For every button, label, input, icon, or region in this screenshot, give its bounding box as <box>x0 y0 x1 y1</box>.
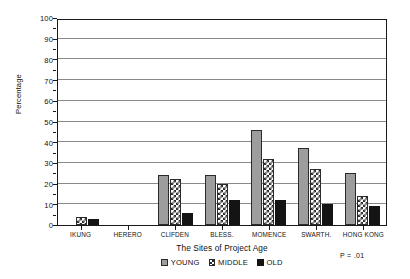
legend-label: OLD <box>267 258 283 267</box>
y-axis-tick-label: 70 <box>27 78 53 86</box>
y-axis-tick-label: 0 <box>27 222 53 230</box>
x-axis-category-label: HERERO <box>104 231 151 243</box>
legend-label: YOUNG <box>171 258 200 267</box>
bar-group <box>105 20 152 225</box>
y-axis-tick-label: 80 <box>27 57 53 65</box>
legend-item: YOUNG <box>161 258 199 267</box>
y-axis-tick-label: 60 <box>27 98 53 106</box>
bar-young <box>158 175 169 225</box>
y-axis-tick-label: 90 <box>27 36 53 44</box>
x-axis-tick-mark <box>269 226 270 230</box>
bar-old <box>88 219 99 225</box>
legend-item: OLD <box>257 258 283 267</box>
y-axis-minor-tick <box>53 49 56 50</box>
x-axis-category-label: HONG KONG <box>340 231 387 243</box>
y-axis-tick-label: 50 <box>27 119 53 127</box>
chart-legend: YOUNGMIDDLEOLD <box>57 258 387 267</box>
y-axis-minor-tick <box>53 194 56 195</box>
x-axis-category-labels: IKUNGHEREROCLIFDENBLESS.MOMENCESWARTH.HO… <box>57 231 387 243</box>
y-axis-tick-label: 100 <box>27 15 53 23</box>
bar-group <box>199 20 246 225</box>
y-axis-label-container: Percentage <box>20 19 21 226</box>
bar-middle <box>263 159 274 225</box>
plot-area <box>57 19 387 226</box>
bar-group <box>245 20 292 225</box>
legend-label: MIDDLE <box>218 258 248 267</box>
bar-group <box>292 20 339 225</box>
bar-group <box>58 20 105 225</box>
x-axis-category-label: SWARTH. <box>293 231 340 243</box>
x-axis-tick-mark <box>81 226 82 230</box>
legend-swatch-icon <box>257 259 264 266</box>
bar-old <box>322 204 333 225</box>
x-axis-tick-mark <box>128 226 129 230</box>
y-axis-label: Percentage <box>14 74 23 114</box>
y-axis-minor-tick <box>53 173 56 174</box>
y-axis-tick-label: 30 <box>27 160 53 168</box>
y-axis-minor-tick <box>53 132 56 133</box>
bar-group <box>339 20 386 225</box>
p-value-annotation: P = .01 <box>340 252 364 259</box>
x-axis-category-label: CLIFDEN <box>151 231 198 243</box>
bar-young <box>251 130 262 225</box>
bar-middle <box>217 184 228 225</box>
bar-group <box>152 20 199 225</box>
x-axis-category-label: BLESS. <box>198 231 245 243</box>
y-axis-minor-tick <box>53 111 56 112</box>
x-axis-tick-mark <box>175 226 176 230</box>
bar-old <box>229 200 240 225</box>
bar-old <box>369 206 380 225</box>
x-axis-category-label: MOMENCE <box>246 231 293 243</box>
bar-chart-figure: Percentage 0102030405060708090100 IKUNGH… <box>0 0 410 279</box>
y-axis-tick-labels: 0102030405060708090100 <box>23 19 53 226</box>
x-axis-tick-mark <box>363 226 364 230</box>
bar-middle <box>310 169 321 225</box>
y-axis-tick-label: 40 <box>27 140 53 148</box>
bar-middle <box>357 196 368 225</box>
x-axis-tick-mark <box>316 226 317 230</box>
bar-young <box>205 175 216 225</box>
legend-item: MIDDLE <box>209 258 248 267</box>
bar-young <box>298 148 309 225</box>
y-axis-minor-tick <box>53 153 56 154</box>
y-axis-minor-tick <box>53 28 56 29</box>
legend-swatch-icon <box>209 259 216 266</box>
x-axis-category-label: IKUNG <box>57 231 104 243</box>
bar-old <box>182 213 193 225</box>
y-axis-minor-tick <box>53 90 56 91</box>
y-axis-minor-tick <box>53 215 56 216</box>
y-axis-tick-label: 20 <box>27 181 53 189</box>
x-axis-label: The Sites of Project Age <box>57 243 387 253</box>
bar-middle <box>76 217 87 225</box>
y-axis-tick-label: 10 <box>27 202 53 210</box>
legend-swatch-icon <box>161 259 168 266</box>
bar-young <box>345 173 356 225</box>
y-axis-minor-tick <box>53 70 56 71</box>
bar-middle <box>170 179 181 225</box>
bar-groups <box>58 20 386 225</box>
x-axis-tick-mark <box>222 226 223 230</box>
bar-old <box>275 200 286 225</box>
